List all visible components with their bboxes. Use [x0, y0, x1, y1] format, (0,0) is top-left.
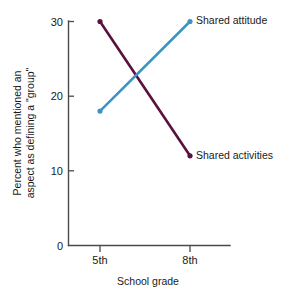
axes-group: [69, 21, 231, 246]
line-chart-figure: 30 20 10 0 5th 8th School grade Percent …: [0, 0, 290, 294]
datapoint-attitude-5th: [97, 109, 102, 114]
y-axis-title-line1: Percent who mentioned an: [11, 70, 23, 195]
series-line-shared-attitude: [100, 22, 190, 112]
datapoint-activities-8th: [187, 153, 192, 158]
x-ticklabel-5th: 5th: [92, 254, 107, 266]
y-ticklabel-10: 10: [51, 165, 63, 177]
y-tickmarks-group: [69, 22, 75, 171]
series-shared-attitude: [97, 19, 192, 114]
y-ticklabel-20: 20: [51, 90, 63, 102]
datapoint-attitude-8th: [187, 19, 192, 24]
y-ticklabels-group: 30 20 10 0: [51, 16, 63, 252]
series-label-shared-activities: Shared activities: [196, 149, 273, 161]
y-ticklabel-0: 0: [57, 240, 63, 252]
chart-canvas: 30 20 10 0 5th 8th School grade Percent …: [0, 0, 290, 294]
x-axis-title: School grade: [117, 275, 179, 287]
y-axis-title-line2: aspect as defining a "group": [24, 67, 36, 198]
x-ticklabel-8th: 8th: [182, 254, 197, 266]
y-axis-title-group: Percent who mentioned an aspect as defin…: [11, 67, 36, 198]
y-ticklabel-30: 30: [51, 16, 63, 28]
series-label-shared-attitude: Shared attitude: [196, 14, 267, 26]
datapoint-activities-5th: [97, 19, 102, 24]
x-ticklabels-group: 5th 8th: [92, 254, 197, 266]
x-tickmarks-group: [100, 246, 190, 253]
series-shared-activities: [97, 19, 192, 159]
series-line-shared-activities: [100, 22, 190, 156]
